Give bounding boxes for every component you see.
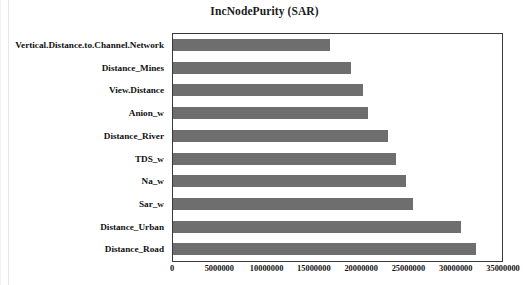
x-axis-tick-15000000: 15000000 — [297, 264, 331, 273]
x-axis-tick-20000000: 20000000 — [344, 264, 378, 273]
bar — [173, 62, 351, 74]
bar-row — [173, 148, 503, 171]
bar-row — [173, 102, 503, 125]
x-axis-tick-labels: 0500000010000000150000002000000025000000… — [0, 264, 529, 280]
chart-title: IncNodePurity (SAR) — [0, 5, 529, 17]
y-axis-label-distance-mines: Distance_Mines — [102, 57, 164, 80]
y-axis-label-sar-w: Sar_w — [139, 193, 164, 216]
bar-row — [173, 216, 503, 239]
bar-row — [173, 238, 503, 261]
y-axis-label-distance-river: Distance_River — [104, 125, 164, 148]
bar-row — [173, 34, 503, 57]
bar-row — [173, 125, 503, 148]
bar-row — [173, 57, 503, 80]
y-axis-category-labels: Vertical.Distance.to.Channel.NetworkDist… — [0, 34, 168, 261]
bar — [173, 130, 388, 142]
bar — [173, 198, 413, 210]
bar-row — [173, 193, 503, 216]
x-axis-tick-25000000: 25000000 — [392, 264, 426, 273]
bar — [173, 221, 461, 233]
y-axis-label-vertical-distance-to-channel-network: Vertical.Distance.to.Channel.Network — [15, 34, 164, 57]
bar-row — [173, 79, 503, 102]
bars-container — [173, 34, 503, 261]
x-axis-tick-0: 0 — [170, 264, 174, 273]
x-axis-tick-10000000: 10000000 — [250, 264, 284, 273]
x-axis-tick-5000000: 5000000 — [205, 264, 234, 273]
bar — [173, 175, 406, 187]
bar — [173, 39, 330, 51]
y-axis-label-anion-w: Anion_w — [129, 102, 164, 125]
bar — [173, 153, 396, 165]
y-axis-label-view-distance: View.Distance — [109, 79, 164, 102]
y-axis-label-distance-urban: Distance_Urban — [100, 216, 164, 239]
x-axis-tick-35000000: 35000000 — [486, 264, 520, 273]
bar — [173, 84, 363, 96]
bar — [173, 243, 476, 255]
x-axis-tick-30000000: 30000000 — [439, 264, 473, 273]
y-axis-label-distance-road: Distance_Road — [105, 238, 164, 261]
bar-row — [173, 170, 503, 193]
incnodepurity-bar-chart: IncNodePurity (SAR) Vertical.Distance.to… — [0, 0, 529, 285]
y-axis-label-tds-w: TDS_w — [135, 148, 164, 171]
bar — [173, 107, 368, 119]
y-axis-label-na-w: Na_w — [142, 170, 164, 193]
